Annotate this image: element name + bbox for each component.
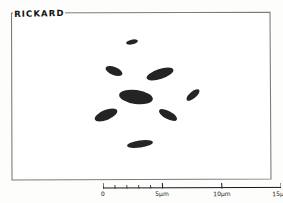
scale-bar-graphic	[103, 181, 281, 201]
scale-tick-label-5: 5µm	[155, 190, 169, 197]
scale-tick-label-10: 10µm	[213, 190, 230, 197]
scale-tick-label-15: 15µm	[272, 190, 283, 197]
illustration-plate	[10, 11, 272, 181]
scale-bar: 05µm10µm15µm	[103, 181, 281, 201]
figure-root: RICKARD 05µm10µm15µm	[0, 0, 283, 203]
specimen-label: RICKARD	[13, 8, 66, 19]
plate-artwork	[10, 11, 272, 181]
scale-tick-label-0: 0	[101, 190, 105, 197]
